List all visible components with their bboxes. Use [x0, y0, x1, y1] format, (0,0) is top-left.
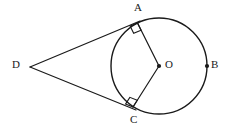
geometry-canvas: [0, 0, 229, 132]
point-dot-o: [157, 64, 161, 68]
tangent-line-dc: [30, 67, 136, 110]
tangent-line-da: [30, 21, 140, 67]
vertex-label-a: A: [134, 2, 142, 13]
vertex-label-c: C: [130, 114, 137, 125]
geometry-figure: A B C D O: [0, 0, 229, 132]
vertex-label-d: D: [12, 59, 20, 70]
vertex-label-o: O: [165, 59, 173, 70]
point-dot-b: [205, 64, 209, 68]
vertex-label-b: B: [211, 59, 218, 70]
